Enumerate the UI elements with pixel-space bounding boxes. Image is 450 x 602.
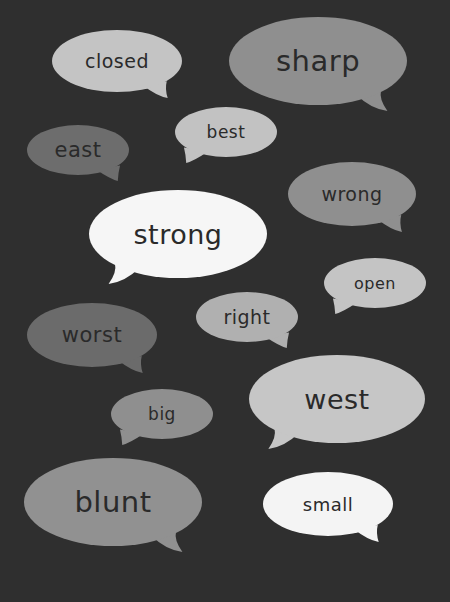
bubble-body (52, 30, 182, 92)
speech-bubble-east (27, 125, 129, 181)
bubble-body (27, 303, 157, 367)
bubble-body (249, 355, 425, 443)
speech-bubble-strong (89, 190, 267, 284)
bubble-body (89, 190, 267, 278)
speech-bubble-west (249, 355, 425, 449)
bubble-body (196, 292, 298, 342)
speech-bubble-worst (27, 303, 157, 373)
bubble-body (324, 258, 426, 308)
speech-bubble-open (324, 258, 426, 314)
bubble-body (111, 389, 213, 439)
bubble-body (27, 125, 129, 175)
speech-bubble-right (196, 292, 298, 348)
speech-bubble-collage: closed sharp east best wrong strong open… (0, 0, 450, 602)
speech-bubble-closed (52, 30, 182, 98)
speech-bubble-best (175, 107, 277, 163)
speech-bubble-wrong (288, 162, 416, 232)
bubble-shapes (0, 0, 450, 602)
bubble-body (229, 17, 407, 105)
bubble-body (288, 162, 416, 226)
speech-bubble-sharp (229, 17, 407, 111)
speech-bubble-blunt (24, 458, 202, 552)
bubble-body (175, 107, 277, 157)
bubble-body (24, 458, 202, 546)
speech-bubble-small (263, 472, 393, 542)
speech-bubble-big (111, 389, 213, 445)
bubble-body (263, 472, 393, 536)
